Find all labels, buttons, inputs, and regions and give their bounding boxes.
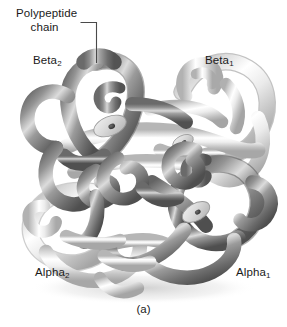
label-beta2-text: Beta (33, 54, 57, 66)
label-beta1-text: Beta (205, 54, 229, 66)
label-polypeptide-line2: chain (16, 21, 77, 35)
label-beta1-subscript: 1 (229, 59, 234, 68)
label-alpha1: Alpha1 (236, 266, 270, 281)
label-beta1: Beta1 (205, 54, 234, 69)
label-beta2-subscript: 2 (57, 59, 62, 68)
label-polypeptide-line1: Polypeptide (16, 7, 77, 19)
label-alpha2-subscript: 2 (65, 271, 70, 280)
label-beta2: Beta2 (33, 54, 62, 69)
label-polypeptide-chain: Polypeptide chain (16, 7, 77, 34)
label-alpha2-text: Alpha (35, 266, 65, 278)
label-alpha1-subscript: 1 (266, 271, 271, 280)
label-alpha2: Alpha2 (35, 266, 69, 281)
hemoglobin-figure: Polypeptide chain Beta2 Beta1 Alpha2 Alp… (0, 0, 287, 327)
figure-caption: (a) (0, 303, 287, 315)
label-alpha1-text: Alpha (236, 266, 266, 278)
